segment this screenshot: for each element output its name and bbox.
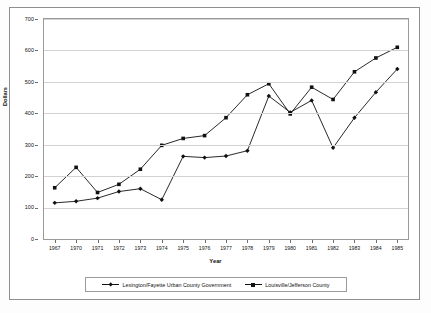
- y-tick-mark: [35, 113, 38, 114]
- x-tick-label: 1972: [113, 245, 125, 251]
- grid-line: [44, 19, 408, 20]
- data-point-square: [117, 183, 121, 187]
- series-1: [53, 45, 399, 194]
- data-point-square: [181, 137, 185, 141]
- legend-label-0: Lexington/Fayette Urban County Governmen…: [122, 282, 231, 288]
- x-tick-mark: [205, 240, 206, 243]
- x-tick-label: 1977: [220, 245, 232, 251]
- x-tick-mark: [98, 240, 99, 243]
- data-point-square: [353, 70, 357, 74]
- x-tick-label: 1974: [156, 245, 168, 251]
- y-tick-label: 400: [25, 110, 34, 116]
- x-tick-mark: [376, 240, 377, 243]
- data-point-square: [395, 45, 399, 49]
- x-tick-mark: [140, 240, 141, 243]
- y-tick-label: 200: [25, 173, 34, 179]
- x-tick-label: 1976: [199, 245, 211, 251]
- y-axis-ticks: 0100200300400500600700: [0, 18, 40, 240]
- data-point-square: [310, 85, 314, 89]
- data-point-diamond: [160, 198, 164, 202]
- legend-marker-square-icon: [245, 281, 262, 288]
- y-tick-mark: [35, 145, 38, 146]
- data-point-diamond: [309, 98, 313, 102]
- y-tick-mark: [35, 239, 38, 240]
- x-tick-mark: [119, 240, 120, 243]
- data-point-diamond: [95, 196, 99, 200]
- data-point-diamond: [117, 189, 121, 193]
- data-point-diamond: [202, 155, 206, 159]
- x-tick-mark: [312, 240, 313, 243]
- data-point-square: [96, 191, 100, 195]
- x-tick-label: 1984: [370, 245, 382, 251]
- y-tick-mark: [35, 176, 38, 177]
- x-tick-mark: [290, 240, 291, 243]
- x-tick-label: 1981: [306, 245, 318, 251]
- data-point-square: [331, 98, 335, 102]
- data-point-square: [74, 166, 78, 170]
- series-layer: [44, 19, 408, 239]
- data-point-diamond: [245, 148, 249, 152]
- x-tick-mark: [333, 240, 334, 243]
- x-tick-label: 1967: [49, 245, 61, 251]
- y-tick-mark: [35, 50, 38, 51]
- grid-line: [44, 113, 408, 114]
- x-tick-label: 1973: [135, 245, 147, 251]
- data-point-square: [203, 134, 207, 138]
- x-tick-mark: [183, 240, 184, 243]
- x-tick-label: 1979: [263, 245, 275, 251]
- chart-legend: Lexington/Fayette Urban County Governmen…: [85, 277, 347, 292]
- data-point-square: [374, 56, 378, 60]
- data-point-square: [224, 116, 228, 120]
- chart-figure: Dollars 0100200300400500600700 196719701…: [0, 0, 431, 313]
- y-tick-label: 500: [25, 79, 34, 85]
- data-point-diamond: [74, 199, 78, 203]
- series-line-0: [55, 69, 398, 203]
- x-axis-ticks: 1967197019711972197319741975197619771978…: [43, 240, 409, 256]
- y-tick-label: 600: [25, 47, 34, 53]
- data-point-diamond: [224, 154, 228, 158]
- x-tick-label: 1985: [392, 245, 404, 251]
- x-tick-label: 1975: [177, 245, 189, 251]
- grid-line: [44, 145, 408, 146]
- grid-line: [44, 50, 408, 51]
- x-tick-mark: [247, 240, 248, 243]
- data-point-square: [246, 93, 250, 97]
- y-tick-mark: [35, 19, 38, 20]
- y-tick-label: 100: [25, 204, 34, 210]
- x-tick-label: 1983: [349, 245, 361, 251]
- series-line-1: [55, 47, 398, 192]
- data-point-diamond: [138, 187, 142, 191]
- data-point-diamond: [181, 154, 185, 158]
- data-point-square: [53, 186, 57, 190]
- y-tick-label: 700: [25, 16, 34, 22]
- data-point-square: [139, 167, 143, 171]
- x-tick-mark: [354, 240, 355, 243]
- x-tick-label: 1978: [242, 245, 254, 251]
- y-tick-mark: [35, 82, 38, 83]
- grid-line: [44, 208, 408, 209]
- legend-label-1: Louisville/Jefferson County: [265, 282, 329, 288]
- series-0: [53, 67, 400, 205]
- grid-line: [44, 82, 408, 83]
- x-tick-label: 1970: [70, 245, 82, 251]
- y-tick-label: 300: [25, 142, 34, 148]
- x-tick-mark: [269, 240, 270, 243]
- x-tick-label: 1982: [327, 245, 339, 251]
- plot-area: [43, 18, 409, 240]
- x-axis-title: Year: [0, 258, 431, 264]
- legend-marker-diamond-icon: [102, 281, 119, 288]
- x-tick-mark: [55, 240, 56, 243]
- data-point-diamond: [53, 201, 57, 205]
- grid-line: [44, 176, 408, 177]
- x-tick-mark: [397, 240, 398, 243]
- y-tick-mark: [35, 208, 38, 209]
- legend-item-0: Lexington/Fayette Urban County Governmen…: [102, 281, 231, 288]
- x-tick-mark: [226, 240, 227, 243]
- x-tick-mark: [76, 240, 77, 243]
- x-tick-label: 1971: [92, 245, 104, 251]
- legend-item-1: Louisville/Jefferson County: [245, 281, 329, 288]
- y-tick-label: 0: [31, 236, 34, 242]
- x-tick-label: 1980: [284, 245, 296, 251]
- x-tick-mark: [162, 240, 163, 243]
